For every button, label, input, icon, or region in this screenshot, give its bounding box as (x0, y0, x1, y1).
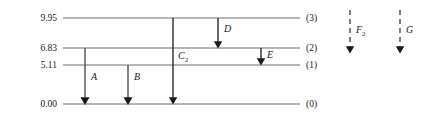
level-index-0: (0) (306, 99, 317, 110)
transition-arrows-group (85, 10, 400, 99)
energy-values-group: 9.95 6.83 5.11 0.00 (40, 13, 57, 109)
transition-label-a: A (90, 71, 98, 82)
energy-level-canvas: 9.95 6.83 5.11 0.00 (3) (2) (1) (0) A B … (0, 0, 424, 114)
energy-value-3: 9.95 (40, 13, 57, 23)
transition-label-c: C2 (178, 50, 189, 64)
transition-label-g: G (406, 24, 413, 35)
level-lines-group (63, 18, 300, 104)
energy-value-1: 5.11 (41, 60, 58, 70)
transition-label-d: D (223, 23, 232, 34)
level-index-3: (3) (306, 13, 317, 24)
energy-value-0: 0.00 (40, 99, 57, 109)
level-indices-group: (3) (2) (1) (0) (306, 13, 317, 110)
energy-level-diagram: 9.95 6.83 5.11 0.00 (3) (2) (1) (0) A B … (0, 0, 424, 114)
transition-label-c-sub: 2 (185, 56, 189, 64)
transition-label-f-sub: 2 (362, 30, 366, 38)
transition-label-b: B (134, 71, 140, 82)
transition-labels-group: A B C2 D E F2 G (90, 23, 413, 82)
energy-value-2: 6.83 (40, 43, 57, 53)
level-index-2: (2) (306, 43, 317, 54)
level-index-1: (1) (306, 60, 317, 71)
transition-label-f: F2 (355, 24, 366, 38)
transition-label-e: E (266, 49, 273, 60)
